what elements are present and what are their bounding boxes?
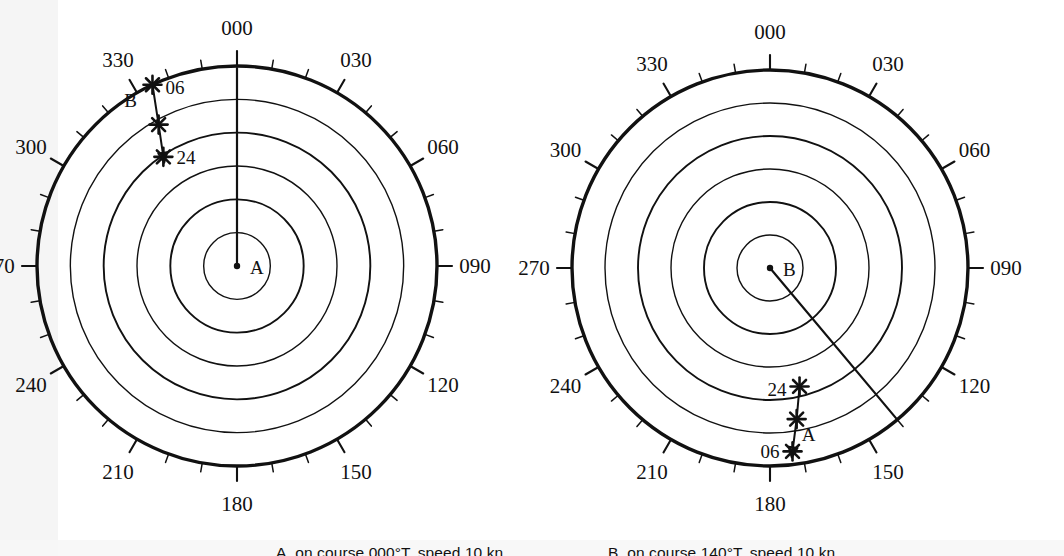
bearing-tick-minor-320 bbox=[637, 109, 643, 116]
bearing-tick-major-120 bbox=[941, 367, 954, 375]
bearing-tick-minor-250 bbox=[575, 336, 583, 339]
bearing-tick-minor-220 bbox=[637, 420, 643, 427]
panel-right-radar-plot: 000030060090120150180210240270300330B240… bbox=[518, 20, 1022, 516]
compass-label-000: 000 bbox=[221, 16, 253, 40]
bearing-tick-minor-220 bbox=[103, 419, 109, 426]
bearing-tick-minor-140 bbox=[897, 420, 903, 427]
plot-mark-star-0-2 bbox=[154, 148, 172, 166]
compass-label-180: 180 bbox=[221, 492, 253, 516]
plot-mark-star-0-0 bbox=[143, 76, 161, 94]
bearing-tick-major-120 bbox=[410, 366, 423, 374]
bearing-tick-minor-50 bbox=[390, 132, 397, 138]
target-ship-label-B: B bbox=[124, 90, 137, 111]
own-ship-label-B: B bbox=[783, 259, 796, 280]
compass-label-150: 150 bbox=[872, 460, 904, 484]
bearing-tick-major-300 bbox=[51, 159, 64, 167]
bearing-tick-minor-290 bbox=[575, 197, 583, 200]
bearing-tick-minor-310 bbox=[611, 135, 618, 141]
panel-left-radar-plot: 000030060090120150180210240270300330A062… bbox=[0, 16, 491, 516]
bearing-tick-minor-70 bbox=[956, 197, 964, 200]
bearing-tick-major-30 bbox=[869, 84, 877, 97]
compass-label-330: 330 bbox=[102, 48, 134, 72]
compass-label-000: 000 bbox=[754, 20, 786, 44]
compass-label-090: 090 bbox=[990, 256, 1022, 280]
bearing-tick-major-150 bbox=[869, 439, 877, 452]
caption-left: A, on course 000°T, speed 10 kn, holds B… bbox=[276, 503, 508, 556]
bearing-tick-minor-230 bbox=[611, 395, 618, 401]
plot-mark-star-1-0 bbox=[791, 377, 809, 395]
bearing-tick-minor-160 bbox=[838, 454, 841, 462]
bearing-tick-minor-110 bbox=[956, 336, 964, 339]
own-ship-centre-dot bbox=[767, 265, 773, 271]
compass-label-270: 270 bbox=[0, 254, 15, 278]
bearing-tick-major-60 bbox=[410, 159, 423, 167]
bearing-tick-minor-130 bbox=[922, 395, 929, 401]
bearing-tick-minor-50 bbox=[922, 135, 929, 141]
bearing-tick-minor-340 bbox=[699, 73, 702, 81]
plot-time-label-06: 06 bbox=[166, 77, 185, 98]
plot-mark-star-1-2 bbox=[784, 442, 802, 460]
bearing-tick-minor-200 bbox=[699, 454, 702, 462]
caption-left-line-1: A, on course 000°T, speed 10 kn, bbox=[276, 543, 508, 556]
compass-label-240: 240 bbox=[550, 374, 582, 398]
bearing-tick-minor-20 bbox=[305, 70, 308, 78]
bearing-tick-major-60 bbox=[941, 162, 954, 170]
bearing-tick-minor-160 bbox=[305, 454, 308, 462]
bearing-tick-minor-20 bbox=[838, 73, 841, 81]
bearing-tick-minor-290 bbox=[41, 195, 49, 198]
caption-right-line-1: B, on course 140°T, speed 10 kn, bbox=[608, 543, 840, 556]
bearing-tick-minor-40 bbox=[897, 109, 903, 116]
compass-label-240: 240 bbox=[15, 373, 47, 397]
bearing-tick-minor-250 bbox=[41, 334, 49, 337]
plot-time-label-24: 24 bbox=[176, 147, 196, 168]
compass-label-210: 210 bbox=[636, 460, 668, 484]
own-ship-centre-dot bbox=[234, 263, 240, 269]
compass-label-030: 030 bbox=[872, 52, 904, 76]
plot-mark-star-0-1 bbox=[150, 116, 168, 134]
own-ship-label-A: A bbox=[250, 257, 264, 278]
bearing-tick-minor-40 bbox=[366, 106, 372, 113]
compass-label-330: 330 bbox=[636, 52, 668, 76]
bearing-tick-minor-310 bbox=[77, 132, 84, 138]
bearing-tick-major-30 bbox=[337, 80, 345, 93]
compass-label-150: 150 bbox=[340, 460, 372, 484]
bearing-tick-major-210 bbox=[130, 439, 138, 452]
compass-label-060: 060 bbox=[427, 135, 459, 159]
radar-plot-figure: 000030060090120150180210240270300330A062… bbox=[0, 0, 1064, 556]
bearing-tick-minor-70 bbox=[425, 195, 433, 198]
bearing-tick-minor-110 bbox=[425, 334, 433, 337]
compass-label-300: 300 bbox=[550, 138, 582, 162]
compass-label-120: 120 bbox=[959, 374, 991, 398]
plot-time-label-06: 06 bbox=[761, 441, 780, 462]
compass-label-210: 210 bbox=[102, 460, 134, 484]
bearing-tick-minor-130 bbox=[390, 395, 397, 401]
compass-label-300: 300 bbox=[15, 135, 47, 159]
bearing-tick-major-240 bbox=[586, 367, 599, 375]
caption-right: B, on course 140°T, speed 10 kn, holds A… bbox=[608, 503, 840, 556]
bearing-tick-major-300 bbox=[586, 162, 599, 170]
bearing-tick-major-150 bbox=[337, 439, 345, 452]
bearing-tick-minor-140 bbox=[366, 419, 372, 426]
compass-label-060: 060 bbox=[959, 138, 991, 162]
target-ship-label-A: A bbox=[802, 424, 816, 445]
bearing-tick-minor-320 bbox=[103, 106, 109, 113]
compass-label-120: 120 bbox=[427, 373, 459, 397]
bearing-tick-major-330 bbox=[664, 84, 672, 97]
bearing-tick-minor-230 bbox=[77, 395, 84, 401]
compass-label-270: 270 bbox=[518, 256, 550, 280]
compass-label-030: 030 bbox=[340, 48, 372, 72]
compass-label-090: 090 bbox=[459, 254, 491, 278]
plot-time-label-24: 24 bbox=[768, 379, 788, 400]
bearing-tick-major-240 bbox=[51, 366, 64, 374]
bearing-tick-major-210 bbox=[664, 439, 672, 452]
bearing-tick-minor-200 bbox=[166, 454, 169, 462]
